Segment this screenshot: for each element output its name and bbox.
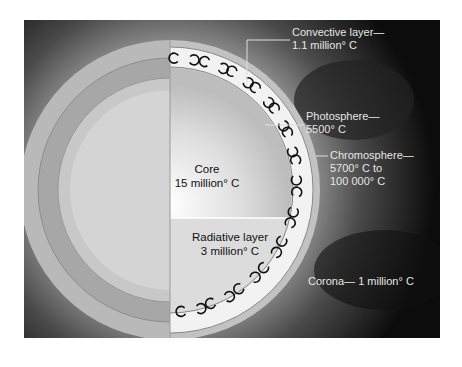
label-line: 100 000° C	[330, 175, 414, 188]
core-label: Core 15 million° C	[172, 162, 242, 190]
label-line: Corona— 1 million° C	[308, 275, 414, 288]
sun-diagram: Convective layer— 1.1 million° C Photosp…	[24, 20, 440, 338]
label-line: 3 million° C	[180, 244, 280, 258]
label-line: Radiative layer	[180, 230, 280, 244]
label-line: 15 million° C	[172, 176, 242, 190]
photosphere-label: Photosphere— 5500° C	[306, 110, 379, 136]
radiative-layer-label: Radiative layer 3 million° C	[180, 230, 280, 258]
label-line: Photosphere—	[306, 110, 379, 123]
convective-layer-label: Convective layer— 1.1 million° C	[292, 26, 384, 52]
label-line: 5700° C to	[330, 162, 414, 175]
label-line: Convective layer—	[292, 26, 384, 39]
label-line: Core	[172, 162, 242, 176]
label-line: 5500° C	[306, 123, 379, 136]
label-line: 1.1 million° C	[292, 39, 384, 52]
chromosphere-label: Chromosphere— 5700° C to 100 000° C	[330, 149, 414, 188]
corona-label: Corona— 1 million° C	[308, 275, 414, 288]
label-line: Chromosphere—	[330, 149, 414, 162]
